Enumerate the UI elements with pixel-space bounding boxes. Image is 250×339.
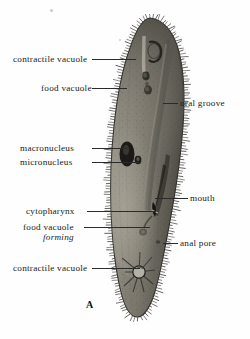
- label-micronucleus: micronucleus: [20, 157, 73, 167]
- label-oral-groove: oral groove: [180, 98, 225, 108]
- label-cytopharynx: cytopharynx: [26, 206, 75, 216]
- leader-line-food-vacuole-forming: [84, 227, 150, 228]
- label-food-vacuole-forming: food vacuole: [23, 222, 74, 232]
- paramecium-illustration: [100, 14, 200, 324]
- leader-line-cytopharynx: [87, 211, 156, 212]
- label-contractile-vacuole-bottom: contractile vacuole: [13, 263, 87, 273]
- leader-line-mouth: [155, 198, 188, 199]
- paramecium-figure: contractile vacuole food vacuole oral gr…: [0, 0, 250, 339]
- leader-line-macronucleus: [92, 148, 127, 149]
- leader-line-contractile-vacuole-top: [92, 59, 136, 60]
- leader-line-anal-pore: [163, 243, 178, 244]
- figure-letter: A: [86, 299, 93, 310]
- label-contractile-vacuole-top: contractile vacuole: [13, 54, 87, 64]
- food-vacuole-forming-shape: [139, 229, 147, 236]
- label-food-vacuole-forming-line2: forming: [43, 232, 74, 242]
- label-macronucleus: macronucleus: [20, 143, 74, 153]
- leader-line-micronucleus: [92, 162, 139, 163]
- leader-line-contractile-vacuole-bottom: [92, 268, 140, 269]
- label-mouth: mouth: [190, 193, 215, 203]
- label-anal-pore: anal pore: [180, 238, 216, 248]
- leader-line-food-vacuole-top: [92, 88, 127, 89]
- label-food-vacuole-top: food vacuole: [41, 83, 92, 93]
- anal-pore-shape: [156, 240, 161, 243]
- paper-speck-icon: [50, 9, 53, 12]
- leader-line-oral-groove: [163, 103, 178, 104]
